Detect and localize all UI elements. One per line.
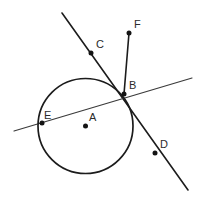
- point-label-D: D: [160, 139, 168, 150]
- point-dot-D: [153, 151, 158, 156]
- point-label-E: E: [44, 110, 51, 121]
- point-dot-E: [40, 121, 45, 126]
- point-label-A: A: [89, 112, 96, 123]
- point-dot-C: [89, 51, 94, 56]
- point-dot-F: [127, 31, 132, 36]
- geometry-canvas: [0, 0, 206, 204]
- line-through-c-b-d: [62, 13, 188, 190]
- point-label-C: C: [96, 39, 104, 50]
- point-dot-A: [83, 124, 88, 129]
- point-label-B: B: [129, 80, 136, 91]
- geometry-figure: A B C D E F: [0, 0, 206, 204]
- point-dot-B: [122, 92, 127, 97]
- point-label-F: F: [134, 19, 141, 30]
